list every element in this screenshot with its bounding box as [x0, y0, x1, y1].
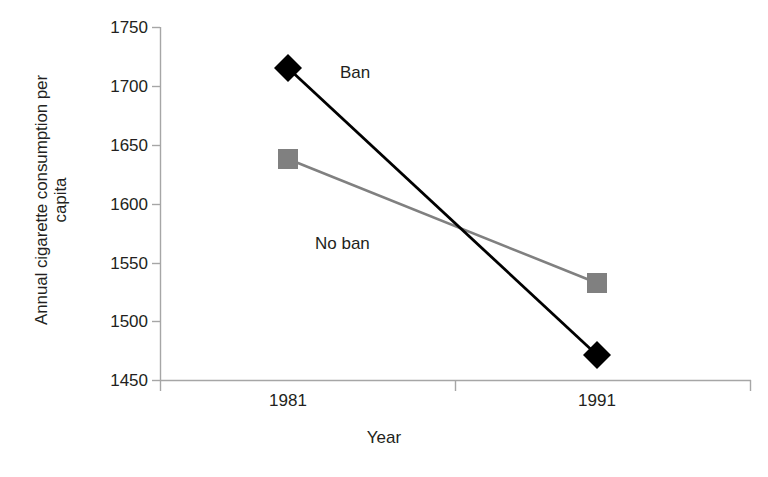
y-axis-ticks: [152, 28, 160, 381]
series-label-ban: Ban: [340, 64, 370, 81]
series-label-no-ban: No ban: [315, 235, 370, 252]
x-tick-label-1981: 1981: [243, 392, 333, 409]
series-no-ban-line: [288, 159, 597, 283]
series-ban-line: [288, 68, 597, 355]
cigarette-consumption-line-chart: Annual cigarette consumption per capita …: [0, 0, 768, 477]
x-tick-label-1991: 1991: [552, 392, 642, 409]
x-axis-ticks: [161, 380, 751, 391]
series-no-ban-marker-1981: [278, 149, 298, 169]
series-no-ban-marker-1991: [587, 273, 607, 293]
series-ban: [274, 54, 611, 369]
plot-area: [0, 0, 768, 477]
series-no-ban: [278, 149, 607, 293]
x-axis-title: Year: [0, 429, 768, 446]
